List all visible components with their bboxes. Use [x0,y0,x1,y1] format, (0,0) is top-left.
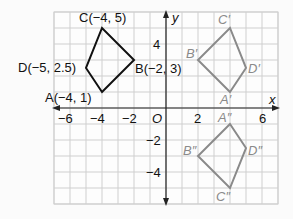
vertex-label-D: D(−5, 2.5) [18,60,76,75]
vertex-label-B: B(−2, 3) [135,61,182,76]
origin-label: O [152,111,162,126]
x-tick-6: 6 [259,111,266,126]
x-axis-label: x [268,92,276,107]
y-tick-neg2: −2 [146,133,161,148]
x-tick-neg4: −4 [90,111,105,126]
vertex-label-C2: C″ [216,189,230,204]
x-tick-neg6: −6 [58,111,73,126]
vertex-label-D1: D′ [248,61,260,76]
vertex-label-A2: A″ [217,110,232,125]
y-tick-4: 4 [153,37,160,52]
x-tick-2: 2 [194,111,201,126]
vertex-label-C: C(−4, 5) [79,10,126,25]
vertex-label-A1: A′ [219,92,232,107]
vertex-label-C1: C′ [218,12,230,27]
vertex-label-B2: B″ [183,143,197,158]
vertex-label-B1: B′ [186,46,198,61]
vertex-label-A: A(−4, 1) [45,90,92,105]
x-tick-neg2: −2 [122,111,137,126]
vertex-label-D2: D″ [248,143,262,158]
coordinate-plane: x y O −6 −4 −2 2 6 4 −2 −4 C(−4, 5) D(−5… [0,0,293,219]
y-tick-neg4: −4 [146,165,161,180]
